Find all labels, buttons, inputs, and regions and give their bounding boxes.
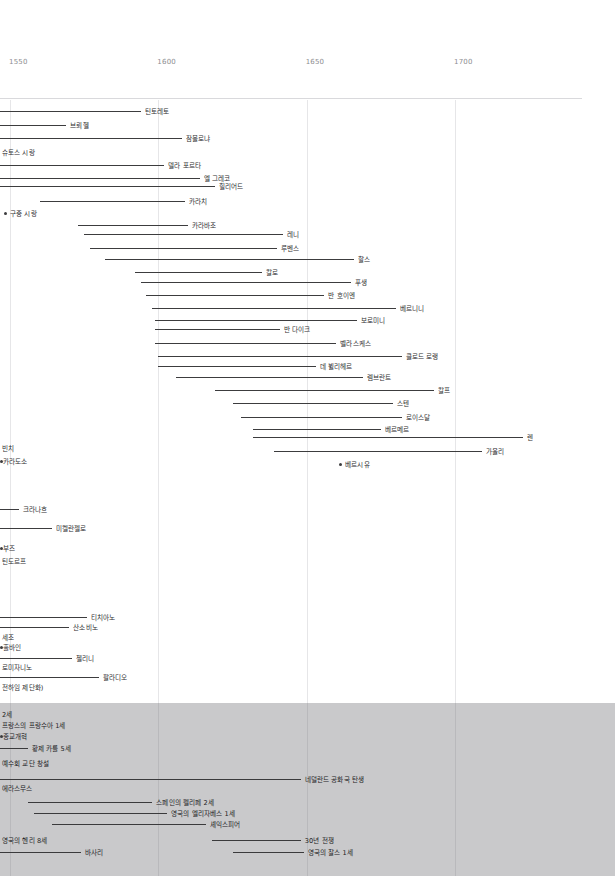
timeline-row-label: 황제 카를 5세 [32,743,71,753]
timeline-row-label: 델라 포르타 [168,160,201,170]
timeline-row-label: 브뢰헬 [70,120,88,130]
timeline-row-label: 홀바인 [3,642,21,652]
timeline-bar [0,178,200,179]
timeline-bar [233,403,393,404]
timeline-row: 반 다이크 [0,323,615,335]
timeline-row: 벨라스케스 [0,337,615,349]
timeline-bar [152,308,395,309]
timeline-bar [155,329,280,330]
timeline-row-label: 예수회 교단 창설 [2,758,49,768]
timeline-bar [28,802,153,803]
timeline-bar [0,165,164,166]
timeline-row-label: 구중 시랑 [10,208,37,218]
timeline-row: 푸생 [0,276,615,288]
timeline-row-label: 칼프 [438,385,450,395]
timeline-row-label: 영국의 엘리자베스 1세 [171,808,235,818]
timeline-row-label: 렌 [527,432,533,442]
axis-tick-1600: 1600 [157,58,176,66]
axis-tick-1700: 1700 [454,58,473,66]
timeline-row-label: 데 뷜리헤르 [320,361,353,371]
timeline-bar [141,282,352,283]
timeline-row-label: 루벤스 [281,243,299,253]
timeline-row-label: 빈치 [2,443,14,453]
timeline-bar [0,748,28,749]
timeline-row: 카라치 [0,195,615,207]
timeline-row-label: 30년 전쟁 [305,835,334,845]
timeline-bar [158,356,401,357]
timeline-row: 구중 시랑 [0,207,615,219]
timeline-row-label: 카라치 [189,196,207,206]
timeline-bar [84,234,283,235]
timeline-row: 잠볼로냐 [0,132,615,144]
timeline-row: 30년 전쟁 [0,834,615,846]
timeline-row: 틴도르프 [0,555,615,567]
timeline-bar [146,295,324,296]
timeline-bar [0,138,182,139]
timeline-bar [135,272,263,273]
timeline-row: 베르니니 [0,302,615,314]
timeline-bar [0,125,66,126]
axis-tick-1550: 1550 [9,58,28,66]
timeline-row-label: 힐리어드 [219,181,243,191]
timeline-bar [0,677,99,678]
timeline-bar [0,186,215,187]
timeline-row: 크라나흐 [0,503,615,515]
timeline-row-label: 할스 [358,254,370,264]
timeline-row-label: 반 다이크 [284,324,311,334]
timeline-bar [0,509,19,510]
timeline-row: 카라도소 [0,455,615,467]
timeline-row-label: 렘브란트 [367,372,391,382]
timeline-bar [253,429,381,430]
timeline-row: 종교개혁 [0,730,615,742]
timeline-row-label: 로이스달 [406,412,430,422]
timeline-row: 에라스무스 [0,782,615,794]
timeline-row: 부즈 [0,542,615,554]
timeline-row-label: 2세 [2,709,12,719]
timeline-row: 브뢰헬 [0,119,615,131]
timeline-bar [0,528,52,529]
timeline-row-label: 크라나흐 [23,504,47,514]
timeline-row: 예수회 교단 창설 [0,757,615,769]
timeline-row: 셰익스피어 [0,818,615,830]
timeline-bar [253,437,523,438]
timeline-bar [0,779,301,780]
timeline-row-label: 프랑스의 프랑수아 1세 [2,720,66,730]
timeline-bar [155,320,357,321]
timeline-row-label: 스텐 [397,398,409,408]
timeline-chart-page: 1550160016501700 틴토레토브뢰헬잠볼로냐슈토스 시랑델라 포르타… [0,0,615,876]
timeline-row: 렘브란트 [0,371,615,383]
timeline-row: 반 호이엔 [0,289,615,301]
axis-tick-1650: 1650 [306,58,325,66]
timeline-row: 영국의 찰스 1세 [0,846,615,858]
timeline-bar [176,377,363,378]
timeline-row-label: 종교개혁 [3,731,27,741]
timeline-row: 전하임 제단화) [0,681,615,693]
timeline-bar [155,343,336,344]
timeline-row-label: 벨라스케스 [340,338,371,348]
timeline-row: 힐리어드 [0,180,615,192]
timeline-row: 레니 [0,228,615,240]
timeline-point-marker [4,212,7,215]
timeline-bar [0,627,69,628]
timeline-row: 로이스달 [0,411,615,423]
timeline-bar [0,658,72,659]
timeline-row-label: 셰익스피어 [210,819,241,829]
timeline-row-label: 틴토레토 [145,106,169,116]
timeline-row-label: 베르니니 [400,303,424,313]
timeline-bar [34,813,168,814]
timeline-row-label: 에라스무스 [2,783,33,793]
timeline-row: 칼프 [0,384,615,396]
timeline-bar [105,259,354,260]
timeline-row: 델라 포르타 [0,159,615,171]
timeline-row-label: 전하임 제단화) [2,682,43,692]
timeline-row-label: 푸생 [355,277,367,287]
timeline-row-label: 영국의 찰스 1세 [308,847,353,857]
timeline-bar [212,840,301,841]
timeline-bar [0,111,141,112]
timeline-row-label: 틴도르프 [2,556,26,566]
timeline-row: 스텐 [0,397,615,409]
timeline-row: 미켈란젤로 [0,522,615,534]
timeline-bar [215,390,435,391]
timeline-bar [78,225,188,226]
timeline-row: 틴토레토 [0,105,615,117]
